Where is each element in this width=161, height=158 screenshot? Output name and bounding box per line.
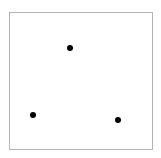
dot-top	[67, 45, 73, 51]
diagram-frame	[9, 12, 153, 150]
dot-bottom-left	[30, 112, 36, 118]
dot-bottom-right	[115, 117, 121, 123]
